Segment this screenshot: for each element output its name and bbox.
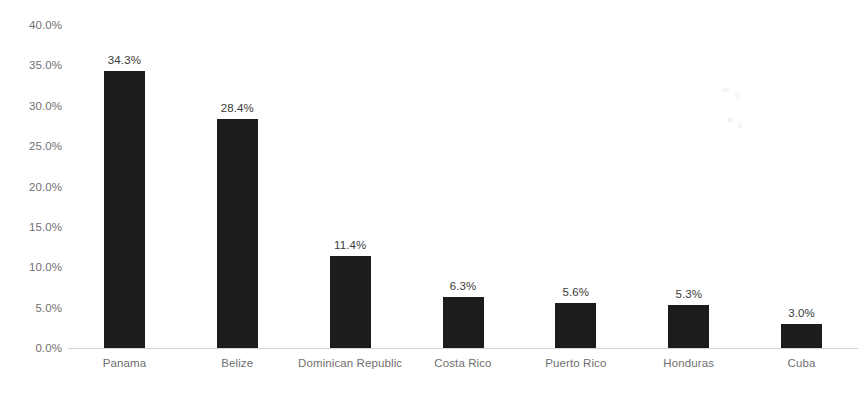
bar[interactable] bbox=[217, 119, 258, 348]
bar[interactable] bbox=[330, 256, 371, 348]
bar-group: 11.4% bbox=[330, 25, 371, 348]
x-axis-category-label: Honduras bbox=[632, 356, 745, 371]
bar[interactable] bbox=[104, 71, 145, 348]
bar-group: 5.6% bbox=[555, 25, 596, 348]
bar[interactable] bbox=[668, 305, 709, 348]
x-axis-category-label: Cuba bbox=[745, 356, 858, 371]
x-axis-line bbox=[68, 348, 858, 349]
y-axis-tick-label: 5.0% bbox=[35, 302, 62, 314]
x-axis-category-label: Puerto Rico bbox=[519, 356, 632, 371]
bar-value-label: 11.4% bbox=[334, 239, 366, 251]
bar-group: 3.0% bbox=[781, 25, 822, 348]
bar[interactable] bbox=[443, 297, 484, 348]
bars-layer: 34.3%28.4%11.4%6.3%5.6%5.3%3.0% bbox=[68, 25, 858, 348]
x-axis-category-label: Panama bbox=[68, 356, 181, 371]
bar-value-label: 6.3% bbox=[450, 280, 477, 292]
plot-area: 34.3%28.4%11.4%6.3%5.6%5.3%3.0% bbox=[68, 25, 858, 348]
bar-value-label: 5.6% bbox=[563, 286, 590, 298]
y-axis-tick-label: 25.0% bbox=[29, 140, 62, 152]
x-axis-labels: PanamaBelizeDominican RepublicCosta Rico… bbox=[68, 356, 858, 408]
y-axis-tick-label: 0.0% bbox=[35, 342, 62, 354]
bar[interactable] bbox=[555, 303, 596, 348]
y-axis: 0.0%5.0%10.0%15.0%20.0%25.0%30.0%35.0%40… bbox=[0, 0, 70, 410]
x-axis-category-label: Belize bbox=[181, 356, 294, 371]
x-axis-category-label: Dominican Republic bbox=[294, 356, 407, 371]
bar-chart: 0.0%5.0%10.0%15.0%20.0%25.0%30.0%35.0%40… bbox=[0, 0, 865, 410]
y-axis-tick-label: 35.0% bbox=[29, 59, 62, 71]
y-axis-tick-label: 40.0% bbox=[29, 19, 62, 31]
bar-group: 28.4% bbox=[217, 25, 258, 348]
x-axis-category-label: Costa Rico bbox=[407, 356, 520, 371]
bar-group: 34.3% bbox=[104, 25, 145, 348]
bar-value-label: 28.4% bbox=[221, 102, 254, 114]
bar-value-label: 5.3% bbox=[675, 288, 702, 300]
bar-group: 5.3% bbox=[668, 25, 709, 348]
y-axis-tick-label: 30.0% bbox=[29, 100, 62, 112]
y-axis-tick-label: 10.0% bbox=[29, 261, 62, 273]
bar-value-label: 3.0% bbox=[788, 307, 815, 319]
bar-value-label: 34.3% bbox=[108, 54, 141, 66]
bar-group: 6.3% bbox=[443, 25, 484, 348]
bar[interactable] bbox=[781, 324, 822, 348]
y-axis-tick-label: 20.0% bbox=[29, 181, 62, 193]
y-axis-tick-label: 15.0% bbox=[29, 221, 62, 233]
